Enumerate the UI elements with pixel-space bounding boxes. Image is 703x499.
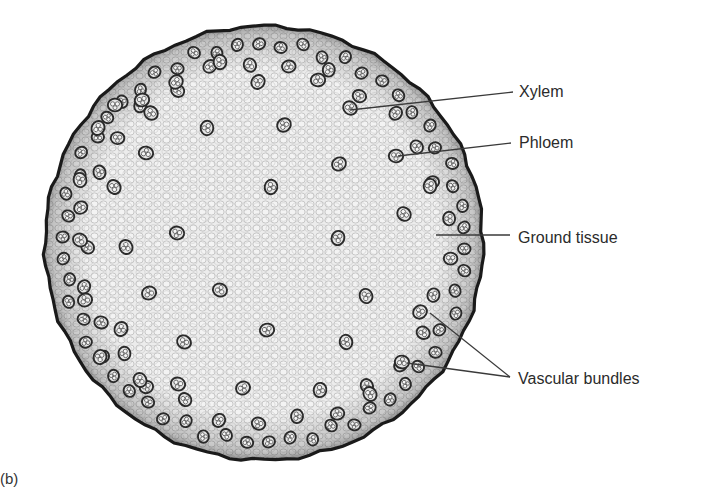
label-xylem: Xylem: [519, 83, 563, 101]
label-phloem: Phloem: [519, 134, 573, 152]
vascular-bundle: [406, 106, 418, 119]
vascular-bundle: [118, 346, 131, 360]
vascular-bundle: [63, 272, 76, 286]
label-vascular-bundles: Vascular bundles: [518, 370, 640, 388]
vascular-bundle: [138, 146, 154, 161]
vascular-bundle: [457, 199, 468, 212]
panel-label: (b): [0, 470, 18, 487]
vascular-bundle: [108, 99, 122, 112]
stem-cross-section-figure: [0, 0, 703, 499]
vascular-bundle: [316, 51, 329, 65]
vascular-bundle: [307, 433, 319, 446]
vascular-bundle: [171, 63, 184, 75]
vascular-bundle: [111, 132, 125, 144]
vascular-bundle: [443, 212, 455, 226]
vascular-bundle: [56, 231, 70, 243]
stem-body: [43, 25, 484, 460]
vascular-bundle: [281, 60, 296, 74]
vascular-bundle: [290, 409, 303, 424]
vascular-bundle: [429, 346, 442, 358]
vascular-bundle: [213, 54, 226, 69]
vascular-bundle: [310, 73, 326, 87]
vascular-bundle: [423, 178, 437, 193]
vascular-bundle: [458, 243, 470, 254]
vascular-bundle: [200, 120, 214, 135]
vascular-bundle: [108, 369, 120, 382]
vascular-bundle: [444, 253, 458, 265]
vascular-bundle: [274, 41, 288, 54]
label-ground-tissue: Ground tissue: [518, 229, 618, 247]
vascular-bundle: [198, 430, 209, 443]
